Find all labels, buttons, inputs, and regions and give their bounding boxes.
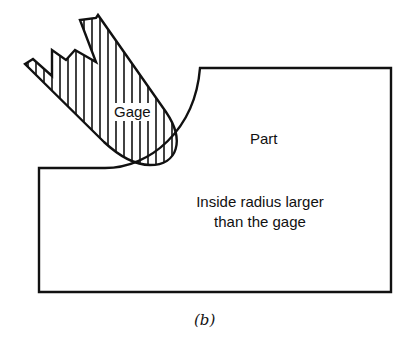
gage-label: Gage <box>113 103 152 121</box>
part-description-line-2: than the gage <box>160 212 360 232</box>
part-description-line-1: Inside radius larger <box>160 192 360 212</box>
part-label: Part <box>250 130 278 148</box>
part-description: Inside radius larger than the gage <box>160 192 360 232</box>
gage-body <box>0 0 411 346</box>
gage-radius-diagram: Gage Part Inside radius larger than the … <box>0 0 411 346</box>
diagram-drawing <box>0 0 411 346</box>
figure-caption: (b) <box>194 311 215 329</box>
